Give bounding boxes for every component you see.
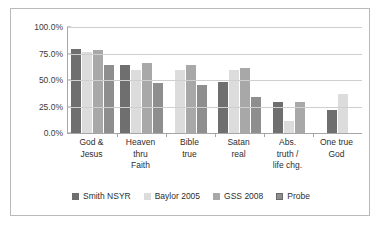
x-axis-category-line: life chg. <box>263 160 312 172</box>
y-axis-tick-label: 50.0% <box>15 76 63 85</box>
bar <box>186 65 196 133</box>
x-axis-category-label: Satanreal <box>214 137 263 160</box>
y-axis-tick-label: 0.0% <box>15 129 63 138</box>
chart-plot-wrapper: 0.0%25.0%50.0%75.0%100.0% God &JesusHeav… <box>11 9 371 217</box>
bar <box>104 65 114 133</box>
legend-item[interactable]: Smith NSYR <box>72 191 131 201</box>
legend-item[interactable]: Baylor 2005 <box>144 191 200 201</box>
gridline <box>68 107 362 108</box>
x-axis-category-line: Satan <box>214 137 263 149</box>
legend-label: Smith NSYR <box>83 191 131 201</box>
x-axis: God &JesusHeaventhruFaithBibletrueSatanr… <box>67 137 361 183</box>
x-axis-category-line: One true <box>312 137 361 149</box>
bar <box>71 49 81 133</box>
x-axis-category-line: Abs. <box>263 137 312 149</box>
bar <box>153 83 163 133</box>
legend-label: Baylor 2005 <box>155 191 200 201</box>
x-axis-category-label: HeaventhruFaith <box>116 137 165 172</box>
x-axis-category-line: Heaven <box>116 137 165 149</box>
x-axis-category-line: truth / <box>263 149 312 161</box>
x-axis-category-label: Bibletrue <box>165 137 214 160</box>
bar <box>284 121 294 133</box>
bar <box>82 52 92 133</box>
x-axis-category-line: Bible <box>165 137 214 149</box>
x-axis-category-label: Abs.truth /life chg. <box>263 137 312 172</box>
y-axis-tick-label: 25.0% <box>15 102 63 111</box>
bar <box>142 63 152 133</box>
bar <box>93 50 103 133</box>
x-axis-category-line: God & <box>67 137 116 149</box>
y-axis-tick-label: 100.0% <box>15 23 63 32</box>
gridline <box>68 54 362 55</box>
legend-label: Probe <box>287 191 310 201</box>
gridline <box>68 27 362 28</box>
gridline <box>68 80 362 81</box>
chart-container: 0.0%25.0%50.0%75.0%100.0% God &JesusHeav… <box>10 8 370 216</box>
x-axis-category-line: Faith <box>116 160 165 172</box>
plot-area <box>67 27 362 134</box>
bar <box>327 110 337 133</box>
legend-item[interactable]: Probe <box>276 191 310 201</box>
x-axis-category-label: God &Jesus <box>67 137 116 160</box>
legend-swatch-icon <box>72 193 79 200</box>
x-axis-category-line: Jesus <box>67 149 116 161</box>
y-axis: 0.0%25.0%50.0%75.0%100.0% <box>15 27 63 133</box>
legend-label: GSS 2008 <box>224 191 263 201</box>
bar <box>251 97 261 133</box>
legend-swatch-icon <box>213 193 220 200</box>
bar <box>197 85 207 133</box>
bar <box>240 68 250 133</box>
y-axis-tick-label: 75.0% <box>15 49 63 58</box>
legend-item[interactable]: GSS 2008 <box>213 191 263 201</box>
bar <box>338 94 348 133</box>
bar <box>120 65 130 133</box>
chart-legend: Smith NSYRBaylor 2005GSS 2008Probe <box>11 191 371 201</box>
legend-swatch-icon <box>144 193 151 200</box>
x-axis-category-line: true <box>165 149 214 161</box>
legend-swatch-icon <box>276 193 283 200</box>
x-axis-category-line: real <box>214 149 263 161</box>
x-axis-category-line: God <box>312 149 361 161</box>
x-axis-category-line: thru <box>116 149 165 161</box>
x-axis-category-label: One trueGod <box>312 137 361 160</box>
